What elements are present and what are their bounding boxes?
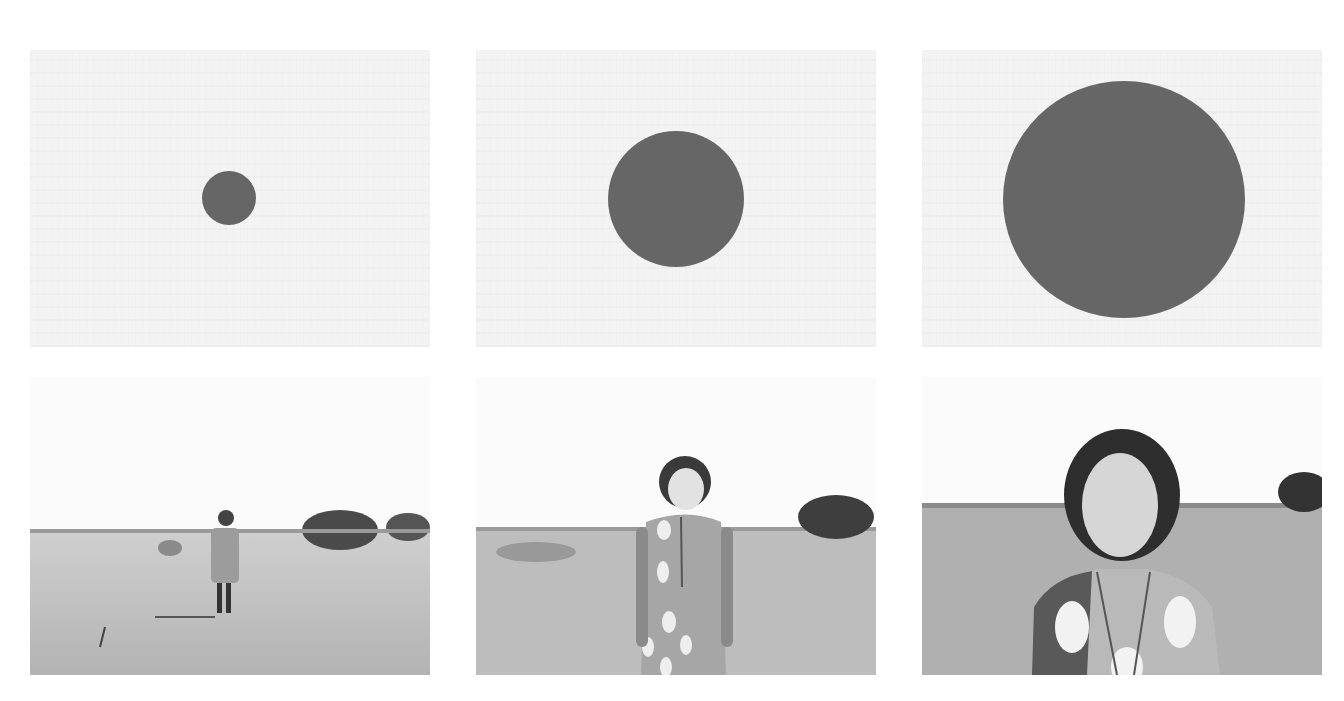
field-photo-medium (476, 377, 876, 675)
small-circle (202, 171, 256, 225)
field-photo-near (922, 377, 1322, 675)
circle-panel-small (30, 50, 430, 347)
field-photo-far (30, 377, 430, 675)
photo-panel-near (922, 377, 1322, 675)
circle-panel-large (922, 50, 1322, 347)
photo-panel-far (30, 377, 430, 675)
medium-circle (608, 131, 744, 267)
photo-panel-medium (476, 377, 876, 675)
circle-panel-medium (476, 50, 876, 347)
large-circle (1003, 81, 1245, 318)
